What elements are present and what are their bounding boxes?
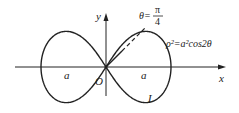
angle-label: θ= [139, 10, 151, 21]
origin-point [104, 65, 107, 68]
y-axis-label: y [95, 10, 101, 22]
curve-name-label: L [147, 92, 154, 104]
lemniscate-diagram: y x O a a L ρ²=a²cos2θ θ= π 4 [0, 0, 239, 113]
angle-denominator: 4 [155, 16, 160, 27]
origin-label: O [95, 75, 103, 87]
angle-numerator: π [155, 4, 160, 15]
x-axis-label: x [218, 72, 224, 84]
angle-ray [122, 27, 146, 51]
curve-equation: ρ²=a²cos2θ [165, 38, 212, 49]
y-axis-arrow-icon [104, 13, 109, 21]
ray-solid-segment [106, 51, 122, 67]
x-axis-arrow-icon [218, 65, 226, 70]
left-a-label: a [64, 69, 70, 81]
right-a-label: a [141, 69, 147, 81]
